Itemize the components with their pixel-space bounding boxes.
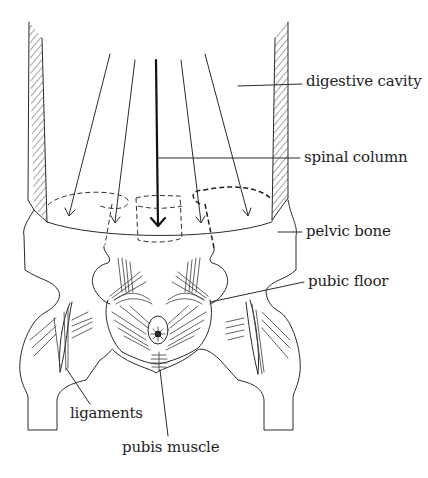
leader-lines — [66, 84, 304, 436]
pelvic-diagram: digestive cavity spinal column pelvic bo… — [0, 0, 428, 478]
right-ligaments — [226, 300, 290, 374]
left-wall-column — [28, 22, 47, 222]
dashed-organ-outlines — [48, 187, 272, 248]
pelvic-bone — [20, 200, 300, 430]
central-arrow — [151, 60, 165, 226]
label-spinal-column: spinal column — [304, 150, 407, 165]
label-pubis-muscle: pubis muscle — [122, 440, 219, 455]
right-wall-column — [272, 22, 288, 222]
leader-pubis-muscle — [160, 370, 168, 436]
label-digestive-cavity: digestive cavity — [306, 74, 421, 89]
leader-ligaments — [66, 368, 90, 404]
left-ligaments — [30, 302, 92, 372]
anus-icon — [151, 327, 165, 341]
pubic-floor-muscles — [106, 258, 212, 371]
label-pubic-floor: pubic floor — [308, 274, 388, 289]
label-ligaments: ligaments — [70, 406, 143, 421]
leader-digestive-cavity — [238, 84, 302, 86]
label-pelvic-bone: pelvic bone — [306, 224, 391, 239]
